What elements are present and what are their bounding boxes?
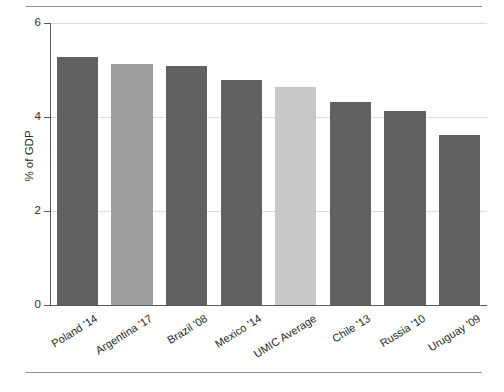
- chart-figure: 0246 Poland '14Argentina '17Brazil '08Me…: [0, 0, 504, 392]
- x-axis-tick-label: Brazil '08: [164, 312, 208, 346]
- x-axis-tick-label: Chile '13: [330, 312, 372, 345]
- y-axis-tick-mark: [44, 305, 50, 306]
- gridline: [50, 23, 487, 24]
- y-axis-tick-mark: [44, 211, 50, 212]
- bar: [439, 135, 480, 305]
- y-axis-tick-mark: [44, 23, 50, 24]
- y-axis-title: % of GDP: [23, 101, 35, 211]
- bar: [221, 80, 262, 305]
- bar: [384, 111, 425, 305]
- y-axis-line: [50, 23, 51, 305]
- x-axis-tick-label: Poland '14: [50, 312, 100, 350]
- y-axis-tick-label: 2: [35, 205, 41, 217]
- bar: [166, 66, 207, 305]
- y-axis-tick-label: 0: [35, 299, 41, 311]
- y-axis-tick-mark: [44, 117, 50, 118]
- x-axis-line: [50, 305, 487, 306]
- bar: [275, 87, 316, 305]
- y-axis-tick-label: 6: [35, 17, 41, 29]
- x-axis-tick-label: Uruguay '09: [426, 312, 482, 353]
- bar: [111, 64, 152, 305]
- bar: [330, 102, 371, 305]
- x-axis-tick-label: Russia '10: [378, 312, 428, 349]
- bar: [57, 57, 98, 305]
- x-axis-tick-label: Argentina '17: [93, 312, 154, 356]
- y-axis-tick-label: 4: [35, 111, 41, 123]
- plot-area: 0246 Poland '14Argentina '17Brazil '08Me…: [0, 0, 504, 392]
- x-axis-tick-label: Mexico '14: [213, 312, 264, 350]
